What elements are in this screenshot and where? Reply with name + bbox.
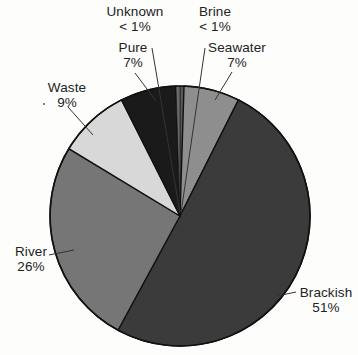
slice-label-pure-value: 7% <box>106 55 160 70</box>
slice-label-unknown-value: < 1% <box>98 19 172 34</box>
slice-label-seawater-name: Seawater <box>196 40 278 55</box>
pie-slices <box>50 86 310 346</box>
slice-label-waste: Waste 9% <box>36 80 98 110</box>
slice-label-brine-name: Brine <box>186 4 244 19</box>
slice-label-seawater: Seawater 7% <box>196 40 278 70</box>
slice-label-waste-value: 9% <box>36 95 98 110</box>
slice-label-brine-value: < 1% <box>186 19 244 34</box>
slice-label-river-name: River <box>4 244 58 259</box>
leader-line-waste <box>68 107 93 135</box>
pie-chart: Unknown < 1% Brine < 1% Pure 7% Seawater… <box>0 0 358 355</box>
slice-label-brackish: Brackish 51% <box>296 285 356 315</box>
slice-label-pure: Pure 7% <box>106 40 160 70</box>
slice-label-river: River 26% <box>4 244 58 274</box>
slice-label-river-value: 26% <box>4 259 58 274</box>
slice-label-unknown-name: Unknown <box>98 4 172 19</box>
slice-label-brine: Brine < 1% <box>186 4 244 34</box>
slice-label-waste-name: Waste <box>36 80 98 95</box>
slice-label-unknown: Unknown < 1% <box>98 4 172 34</box>
slice-label-seawater-value: 7% <box>196 55 278 70</box>
slice-label-brackish-name: Brackish <box>296 285 356 300</box>
slice-label-pure-name: Pure <box>106 40 160 55</box>
slice-label-brackish-value: 51% <box>296 300 356 315</box>
